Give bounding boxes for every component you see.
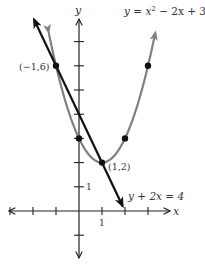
data-point: [76, 135, 82, 141]
x-axis-label: x: [173, 205, 180, 218]
linear-line: [34, 19, 123, 206]
y-tick-label-1: 1: [86, 182, 92, 192]
y-axis-label: y: [74, 4, 82, 17]
parabola-curve: [49, 32, 156, 162]
data-point: [99, 159, 105, 165]
graph-canvas: y x y = x2 − 2x + 3 y + 2x = 4 (−1,6) (1…: [0, 0, 205, 266]
point-label-left: (−1,6): [19, 61, 49, 72]
data-point: [122, 135, 128, 141]
plotted-points: [53, 63, 151, 166]
data-point: [145, 63, 151, 69]
parabola-equation-label: y = x2 − 2x + 3: [123, 5, 205, 17]
point-label-vertex: (1,2): [108, 161, 131, 172]
data-point: [53, 63, 59, 69]
x-tick-label-1: 1: [99, 218, 105, 228]
line-equation-label: y + 2x = 4: [127, 190, 184, 202]
